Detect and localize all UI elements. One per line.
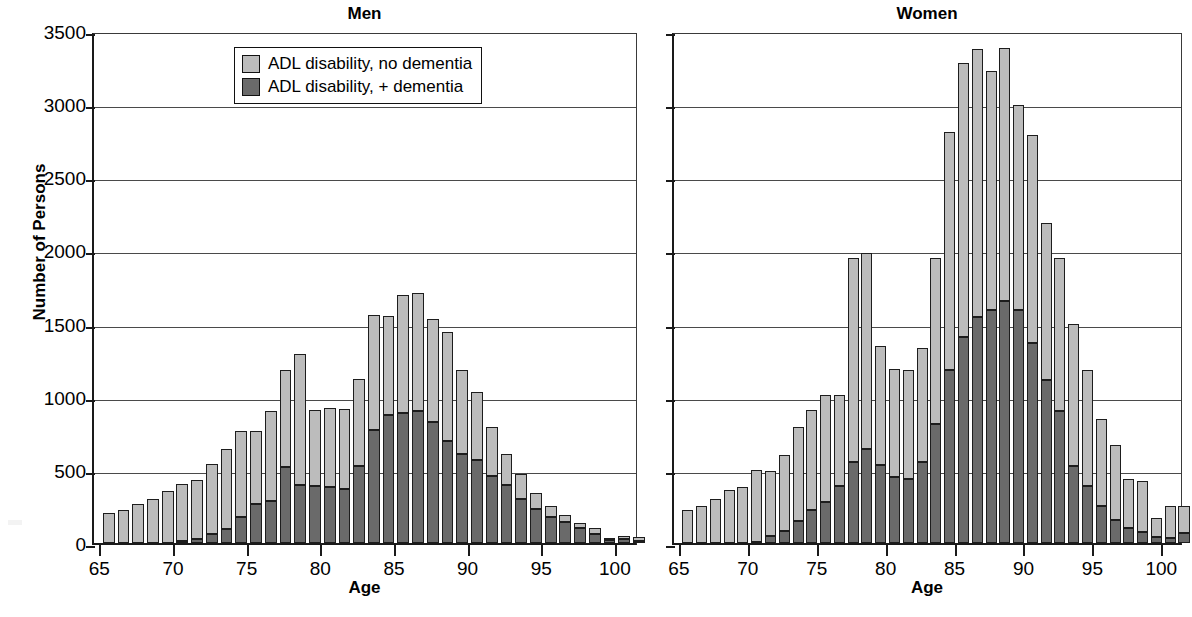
y-tick-label: 2500 bbox=[44, 168, 86, 190]
bar-segment-no-dementia bbox=[280, 370, 292, 467]
bar bbox=[696, 506, 707, 543]
bar-segment-plus-dementia bbox=[397, 413, 409, 543]
bar bbox=[1082, 370, 1093, 543]
x-tick-label: 65 bbox=[668, 558, 689, 580]
bar-segment-plus-dementia bbox=[917, 462, 928, 543]
bar bbox=[118, 510, 130, 543]
bar-segment-no-dementia bbox=[1123, 479, 1134, 528]
bar bbox=[710, 499, 721, 543]
bar-segment-plus-dementia bbox=[604, 540, 616, 543]
bar bbox=[501, 454, 513, 543]
bar bbox=[848, 258, 859, 543]
bar bbox=[486, 427, 498, 543]
x-tick-label: 85 bbox=[944, 558, 965, 580]
bar-segment-no-dementia bbox=[103, 513, 115, 543]
x-tick-label: 85 bbox=[383, 558, 404, 580]
bar-segment-no-dementia bbox=[427, 319, 439, 422]
bar bbox=[1151, 518, 1162, 543]
bar-segment-no-dementia bbox=[383, 316, 395, 415]
bar bbox=[765, 471, 776, 543]
x-tick-mark bbox=[320, 545, 322, 556]
bar-segment-plus-dementia bbox=[999, 301, 1010, 543]
bar-segment-plus-dementia bbox=[972, 317, 983, 543]
bar-segment-no-dementia bbox=[412, 293, 424, 411]
x-tick-label: 70 bbox=[737, 558, 758, 580]
bar-segment-no-dementia bbox=[265, 411, 277, 500]
x-tick-label: 75 bbox=[236, 558, 257, 580]
x-tick-mark bbox=[817, 545, 819, 556]
bar-segment-no-dementia bbox=[1178, 506, 1189, 533]
x-axis-title-women: Age bbox=[672, 578, 1182, 598]
bar-segment-no-dementia bbox=[1082, 370, 1093, 486]
legend-item: ADL disability, no dementia bbox=[242, 52, 472, 75]
bar-segment-no-dementia bbox=[118, 510, 130, 543]
bar-segment-no-dementia bbox=[848, 258, 859, 462]
bar-segment-no-dementia bbox=[861, 253, 872, 448]
bar-segment-no-dementia bbox=[162, 491, 174, 543]
bar-segment-no-dementia bbox=[1068, 324, 1079, 466]
x-tick-label: 75 bbox=[806, 558, 827, 580]
bar-segment-plus-dementia bbox=[1082, 486, 1093, 543]
y-tick-label: 1500 bbox=[44, 315, 86, 337]
bar-segment-no-dementia bbox=[765, 471, 776, 537]
x-tick-mark bbox=[1161, 545, 1163, 556]
bar-segment-plus-dementia bbox=[1123, 528, 1134, 543]
bar bbox=[397, 295, 409, 543]
bar-segment-plus-dementia bbox=[1041, 380, 1052, 543]
bar bbox=[250, 431, 262, 543]
bar-segment-no-dementia bbox=[999, 48, 1010, 301]
bar bbox=[972, 49, 983, 543]
bar-segment-plus-dementia bbox=[221, 529, 233, 543]
y-tick-label: 1000 bbox=[44, 388, 86, 410]
bar-segment-plus-dementia bbox=[339, 489, 351, 543]
bar bbox=[265, 411, 277, 543]
bar-segment-no-dementia bbox=[353, 379, 365, 466]
bar-segment-plus-dementia bbox=[471, 460, 483, 543]
bar bbox=[1123, 479, 1134, 543]
x-tick-label: 90 bbox=[457, 558, 478, 580]
bar bbox=[191, 480, 203, 543]
bar-segment-no-dementia bbox=[930, 258, 941, 423]
x-tick-label: 90 bbox=[1013, 558, 1034, 580]
bar-segment-plus-dementia bbox=[633, 541, 645, 543]
bar-segment-plus-dementia bbox=[1054, 411, 1065, 543]
bar-segment-no-dementia bbox=[917, 348, 928, 461]
bar-segment-plus-dementia bbox=[353, 466, 365, 543]
bar bbox=[162, 491, 174, 543]
plot-area-men bbox=[92, 33, 637, 545]
legend-item: ADL disability, + dementia bbox=[242, 75, 472, 98]
bar-segment-no-dementia bbox=[875, 346, 886, 465]
panel-women: Women 65707580859095100 Age bbox=[672, 0, 1182, 617]
bar-segment-no-dementia bbox=[442, 332, 454, 440]
bar-segment-no-dementia bbox=[958, 63, 969, 337]
bar bbox=[103, 513, 115, 543]
x-tick-mark bbox=[886, 545, 888, 556]
bar-segment-plus-dementia bbox=[206, 534, 218, 543]
bar-segment-plus-dementia bbox=[834, 486, 845, 543]
bar-segment-no-dementia bbox=[1165, 506, 1176, 538]
bar bbox=[1165, 506, 1176, 543]
bar-segment-no-dementia bbox=[471, 392, 483, 460]
bar-segment-no-dementia bbox=[456, 370, 468, 453]
bars-men bbox=[94, 34, 636, 543]
x-tick-label: 80 bbox=[310, 558, 331, 580]
bar bbox=[589, 528, 601, 543]
bar bbox=[604, 539, 616, 543]
bar bbox=[235, 431, 247, 543]
bar-segment-plus-dementia bbox=[1096, 506, 1107, 543]
bar-segment-plus-dementia bbox=[806, 510, 817, 543]
bar bbox=[737, 487, 748, 543]
bar bbox=[834, 395, 845, 543]
bar bbox=[930, 258, 941, 543]
x-tick-mark bbox=[679, 545, 681, 556]
bar-segment-plus-dementia bbox=[820, 502, 831, 543]
bar bbox=[442, 332, 454, 543]
x-tick-mark bbox=[99, 545, 101, 556]
y-tick-label: 500 bbox=[54, 461, 86, 483]
bar-segment-plus-dementia bbox=[486, 476, 498, 543]
bar bbox=[903, 370, 914, 543]
bar-segment-no-dementia bbox=[1041, 223, 1052, 380]
bar-segment-plus-dementia bbox=[235, 517, 247, 543]
bar bbox=[280, 370, 292, 543]
legend-swatch-no-dementia-icon bbox=[242, 55, 260, 73]
